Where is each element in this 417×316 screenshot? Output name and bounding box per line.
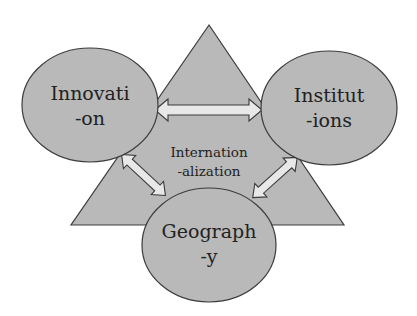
node-institutions-line2: -ions [306,109,352,131]
internationalization-diagram: Innovati -on Institut -ions Internation … [0,0,417,316]
node-innovation: Innovati -on [22,48,158,162]
center-label-line2: -alization [178,163,241,179]
center-label-line1: Internation [170,144,248,160]
node-innovation-line2: -on [75,107,105,129]
node-geography: Geograph -y [142,188,276,302]
node-geography-line1: Geograph [162,220,257,242]
node-innovation-line1: Innovati [50,82,129,104]
node-institutions: Institut -ions [261,51,397,165]
node-institutions-line1: Institut [294,84,365,106]
node-geography-line2: -y [200,245,217,267]
